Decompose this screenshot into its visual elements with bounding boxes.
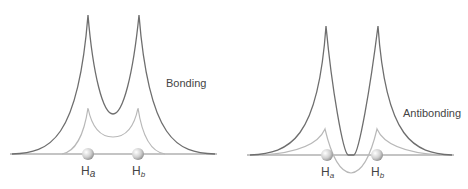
atom-a-label: Ha [321, 165, 335, 180]
bonding-label: Bonding [166, 77, 206, 89]
antibonding-wavefunction-curve [262, 129, 440, 173]
bonding-wavefunction-curve [62, 108, 165, 154]
antibonding-probability-curve [250, 26, 452, 155]
antibonding-label: Antibonding [403, 107, 461, 119]
orbital-diagram: Bonding Ha Hb Antibonding Ha Hb [0, 0, 468, 189]
bonding-panel: Bonding Ha Hb [10, 15, 217, 179]
antibonding-panel: Antibonding Ha Hb [247, 26, 461, 180]
atom-b-label: Hb [132, 164, 146, 179]
nucleus-b [371, 149, 383, 161]
atom-b-label: Hb [371, 165, 385, 180]
nucleus-b [132, 148, 144, 160]
atom-a-label: Ha [81, 164, 96, 179]
nucleus-a [82, 148, 94, 160]
nucleus-a [321, 149, 333, 161]
